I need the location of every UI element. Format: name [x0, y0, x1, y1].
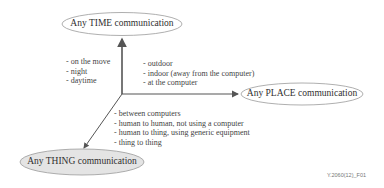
figure-caption: Y.2060(12)_F01	[327, 172, 366, 178]
thing-node-label: Any THING communication	[20, 157, 144, 167]
thing-item: - thing to thing	[114, 138, 250, 148]
place-item: - indoor (away from the computer)	[143, 69, 254, 79]
time-node-label: Any TIME communication	[62, 19, 182, 29]
place-item: - at the computer	[143, 78, 254, 88]
time-item: - night	[66, 67, 110, 77]
time-item: - on the move	[66, 57, 110, 67]
place-items-list: - outdoor - indoor (away from the comput…	[143, 59, 254, 88]
thing-item: - human to human, not using a computer	[114, 119, 250, 129]
thing-items-list: - between computers - human to human, no…	[114, 109, 250, 147]
thing-item: - human to thing, using generic equipmen…	[114, 128, 250, 138]
time-items-list: - on the move - night - daytime	[66, 57, 110, 86]
place-item: - outdoor	[143, 59, 254, 69]
time-item: - daytime	[66, 76, 110, 86]
place-node-label: Any PLACE communication	[241, 89, 363, 99]
thing-item: - between computers	[114, 109, 250, 119]
